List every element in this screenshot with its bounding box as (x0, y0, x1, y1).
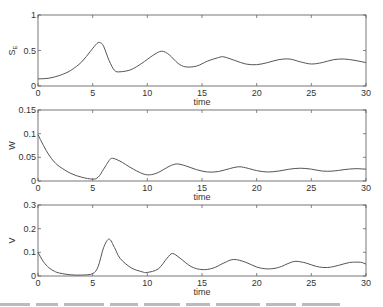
axes-box (38, 205, 366, 276)
x-tick-label: 30 (361, 183, 371, 193)
y-tick-label: 0.3 (23, 200, 36, 210)
x-tick-label: 0 (35, 183, 40, 193)
y-axis-label: SE (7, 45, 18, 55)
y-tick-label: 0.5 (23, 46, 36, 56)
x-axis-label: time (193, 192, 210, 202)
series-line-S_E (38, 42, 366, 79)
x-tick-label: 10 (142, 183, 152, 193)
truncated-caption (0, 299, 383, 307)
series-line-W (38, 135, 366, 180)
x-tick-label: 10 (142, 278, 152, 288)
y-tick-label: 0.1 (23, 247, 36, 257)
y-axis-label: W (7, 141, 17, 150)
x-tick-label: 30 (361, 278, 371, 288)
x-tick-label: 30 (361, 88, 371, 98)
y-axis-label: V (7, 237, 17, 243)
figure: 05101520253000.51timeSE05101520253000.05… (0, 0, 383, 307)
y-tick-label: 0 (31, 176, 36, 186)
y-tick-label: 0.2 (23, 224, 36, 234)
axes-box (38, 15, 366, 86)
x-axis-label: time (193, 287, 210, 297)
y-tick-label: 0 (31, 81, 36, 91)
panel-top: 05101520253000.51timeSE (7, 10, 371, 107)
x-tick-label: 5 (90, 183, 95, 193)
x-tick-label: 5 (90, 88, 95, 98)
x-tick-label: 10 (142, 88, 152, 98)
x-tick-label: 20 (252, 88, 262, 98)
y-tick-label: 1 (31, 10, 36, 20)
panel-middle: 05101520253000.050.10.15timeW (7, 105, 371, 202)
y-tick-label: 0.15 (18, 105, 36, 115)
x-tick-label: 0 (35, 278, 40, 288)
x-tick-label: 0 (35, 88, 40, 98)
series-line-V (38, 239, 366, 275)
x-tick-label: 5 (90, 278, 95, 288)
y-tick-label: 0.05 (18, 152, 36, 162)
x-tick-label: 25 (306, 88, 316, 98)
x-axis-label: time (193, 97, 210, 107)
x-tick-label: 25 (306, 278, 316, 288)
panel-bottom: 05101520253000.10.20.3timeV (7, 200, 371, 297)
y-tick-label: 0.1 (23, 129, 36, 139)
x-tick-label: 20 (252, 183, 262, 193)
x-tick-label: 20 (252, 278, 262, 288)
x-tick-label: 25 (306, 183, 316, 193)
y-tick-label: 0 (31, 271, 36, 281)
